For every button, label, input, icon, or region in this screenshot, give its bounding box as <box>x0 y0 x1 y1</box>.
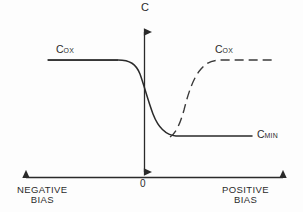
cox-right-subscript: OX <box>223 47 233 54</box>
cox-right-symbol: C <box>215 43 223 55</box>
negative-bias-line2: BIAS <box>17 195 68 205</box>
cv-curve-figure: C 0 COX COX CMIN NEGATIVE BIAS POSITIVE … <box>0 0 303 212</box>
positive-bias-label: POSITIVE BIAS <box>222 185 269 205</box>
y-axis-label: C <box>141 2 149 14</box>
high-frequency-cv-curve <box>48 60 252 136</box>
low-frequency-cv-curve <box>170 60 272 137</box>
positive-bias-line2: BIAS <box>222 195 269 205</box>
cv-curve-plot <box>0 0 303 212</box>
cmin-symbol: C <box>257 128 265 140</box>
cmin-subscript: MIN <box>265 132 278 139</box>
origin-label: 0 <box>140 179 146 190</box>
cox-left-label: COX <box>56 44 74 55</box>
cox-left-symbol: C <box>56 43 64 55</box>
cox-right-label: COX <box>215 44 233 55</box>
cox-left-subscript: OX <box>64 47 74 54</box>
cmin-label: CMIN <box>257 129 278 140</box>
negative-bias-label: NEGATIVE BIAS <box>17 185 68 205</box>
